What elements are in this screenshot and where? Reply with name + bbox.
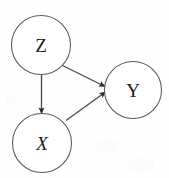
dag-graphic: Z X Y — [0, 0, 169, 178]
diagram-canvas: Z X Y — [0, 0, 169, 178]
node-y-label: Y — [126, 80, 140, 101]
edge-group — [42, 66, 106, 121]
node-y[interactable]: Y — [105, 62, 162, 119]
node-z[interactable]: Z — [12, 16, 71, 75]
edge-x-to-y — [66, 92, 106, 121]
node-x[interactable]: X — [13, 114, 72, 173]
node-x-label: X — [35, 133, 49, 154]
node-z-label: Z — [35, 35, 47, 56]
edge-z-to-y — [63, 66, 106, 87]
